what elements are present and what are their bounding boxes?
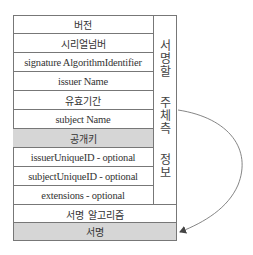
curved-arrow-icon [0, 0, 253, 255]
